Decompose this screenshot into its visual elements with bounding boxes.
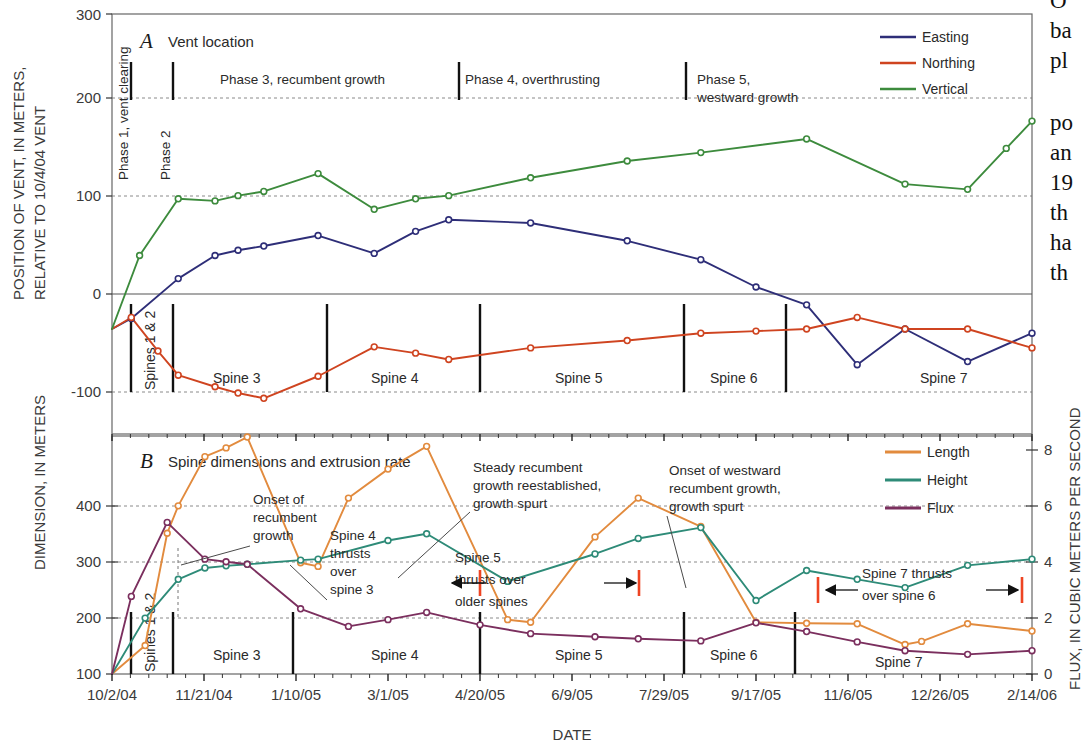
panel-b-marker-flux [698, 638, 704, 644]
panel-b-marker-height [1029, 556, 1035, 562]
annot-onset-recumbent-l1: Onset of [253, 492, 304, 507]
panel-b-marker-length [1029, 628, 1035, 634]
x-axis-tick-label: 6/9/05 [551, 686, 593, 703]
panel-b-marker-length [202, 454, 208, 460]
panel-a-marker-northing [965, 326, 971, 332]
panel-b-marker-height [142, 615, 148, 621]
panel-b-marker-flux [965, 651, 971, 657]
panel-b-marker-flux [164, 520, 170, 526]
annotation-spine5-thrusts: Spine 5 thrusts over older spines [452, 550, 639, 609]
legend-label-length: Length [927, 444, 970, 460]
panel-a-data-lines [112, 121, 1032, 398]
panel-a-letter: A [138, 29, 153, 53]
panel-a-ytick-0: 0 [93, 285, 101, 302]
panel-a-marker-northing [698, 330, 704, 336]
annot-spine4-l4: spine 3 [330, 582, 374, 597]
panel-b-letter: B [140, 449, 153, 473]
panel-a-y-axis-label-line2: RELATIVE TO 10/4/04 VENT [31, 106, 48, 300]
legend-label-easting: Easting [922, 29, 969, 45]
annot-spine4-l1: Spine 4 [330, 528, 376, 543]
panel-a-marker-easting [446, 217, 452, 223]
panel-b-marker-length [424, 443, 430, 449]
panel-b-ytick-100: 100 [76, 665, 101, 682]
panel-b-marker-length [919, 639, 925, 645]
panel-a-marker-northing [624, 338, 630, 344]
panel-a-marker-northing [175, 372, 181, 378]
panel-a-spine-label-7: Spine 7 [920, 370, 968, 386]
panel-b-marker-flux [804, 629, 810, 635]
panel-a-marker-vertical [528, 175, 534, 181]
panel-a-marker-easting [698, 257, 704, 263]
panel-b-spine-label-6: Spine 6 [710, 647, 758, 663]
panel-b-marker-height [298, 557, 304, 563]
panel-b-marker-length [244, 434, 250, 440]
panel-a-marker-vertical [1029, 118, 1035, 124]
panel-a-marker-vertical [965, 186, 971, 192]
annot-steady-l1: Steady recumbent [473, 460, 583, 475]
panel-b-y2tick-0: 0 [1044, 665, 1052, 682]
panel-a: 300 200 100 0 -100 POSITION OF VENT, IN … [10, 6, 1035, 434]
panel-a-line-vertical [112, 121, 1032, 329]
panel-b-marker-height [385, 538, 391, 544]
panel-b-marker-flux [902, 648, 908, 654]
panel-a-marker-northing [235, 390, 241, 396]
panel-a-marker-vertical [413, 196, 419, 202]
panel-a-marker-northing [854, 315, 860, 321]
panel-a-marker-vertical [261, 189, 267, 195]
panel-a-phase-3-label: Phase 3, recumbent growth [220, 72, 385, 87]
annot-spine4-l3: over [330, 564, 357, 579]
panel-a-line-easting [112, 220, 1032, 365]
panel-a-marker-northing [212, 384, 218, 390]
x-axis-tick-label: 7/29/05 [639, 686, 689, 703]
panel-b-marker-flux [298, 606, 304, 612]
panel-a-marker-northing [128, 315, 134, 321]
legend-label-flux: Flux [927, 500, 953, 516]
x-axis-tick-label: 11/21/04 [175, 686, 232, 703]
panel-b-marker-length [592, 534, 598, 540]
x-axis-tick-label: 3/1/05 [367, 686, 409, 703]
panel-a-legend: Easting Northing Vertical [880, 29, 975, 97]
panel-a-marker-northing [528, 345, 534, 351]
panel-a-marker-easting [804, 302, 810, 308]
side-text-0: O [1050, 0, 1067, 13]
panel-a-y-axis-label-line1: POSITION OF VENT, IN METERS, [10, 67, 27, 300]
panel-b-marker-height [804, 568, 810, 574]
panel-a-marker-vertical [624, 158, 630, 164]
panel-a-marker-vertical [1003, 146, 1009, 152]
panel-b-spine-label-1-2: Spines 1 & 2 [142, 592, 158, 672]
panel-b-marker-flux [753, 620, 759, 626]
panel-a-marker-easting [212, 253, 218, 259]
panel-b-marker-flux [635, 636, 641, 642]
annot-westward-l2: recumbent growth, [669, 481, 781, 496]
panel-a-ytick-100: 100 [76, 187, 101, 204]
panel-b-marker-height [635, 536, 641, 542]
panel-b-marker-length [528, 619, 534, 625]
panel-a-marker-vertical [902, 181, 908, 187]
annotation-onset-westward: Onset of westward recumbent growth, grow… [667, 463, 781, 588]
panel-a-marker-easting [371, 251, 377, 257]
side-text-6: th [1050, 200, 1068, 225]
annot-westward-l1: Onset of westward [669, 463, 781, 478]
annot-onset-recumbent-l2: recumbent [253, 510, 317, 525]
panel-b-marker-flux [477, 622, 483, 628]
panel-b-marker-flux [1029, 648, 1035, 654]
panel-b-marker-flux [424, 610, 430, 616]
annot-onset-recumbent-l3: growth [253, 528, 294, 543]
panel-b-marker-height [315, 556, 321, 562]
panel-b-legend: Length Height Flux [885, 444, 970, 516]
panel-b-marker-flux [223, 559, 229, 565]
panel-b-marker-length [635, 495, 641, 501]
panel-a-marker-northing [371, 344, 377, 350]
panel-b-marker-height [854, 576, 860, 582]
annotation-spine7-thrusts: Spine 7 thrusts over spine 6 [818, 566, 1022, 603]
panel-a-line-northing [112, 317, 1032, 398]
panel-a-marker-vertical [212, 198, 218, 204]
annot-steady-l2: growth reestablished, [473, 478, 601, 493]
panel-a-marker-easting [624, 238, 630, 244]
panel-b: 400 300 200 100 DIMENSION, IN METERS 8 6… [31, 395, 1083, 690]
annot-steady-l3: growth spurt [473, 496, 548, 511]
x-axis-tick-label: 2/14/06 [1007, 686, 1057, 703]
panel-b-marker-length [854, 621, 860, 627]
panel-b-ytick-300: 300 [76, 553, 101, 570]
panel-a-marker-vertical [175, 196, 181, 202]
